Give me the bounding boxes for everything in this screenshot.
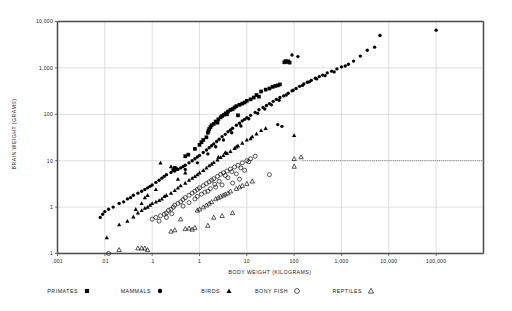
- legend-label-primates: PRIMATES: [47, 288, 78, 294]
- grid-lines: [58, 22, 484, 254]
- data-point: [253, 154, 257, 158]
- data-point: [378, 34, 381, 37]
- data-point: [157, 179, 160, 182]
- data-point: [154, 181, 157, 184]
- data-point: [190, 159, 193, 162]
- x-tick-label: 100,000: [426, 258, 446, 264]
- data-point: [111, 205, 114, 208]
- data-point: [256, 112, 259, 115]
- series-primates: [171, 59, 291, 172]
- y-tick-label: 1: [50, 204, 53, 210]
- data-point: [193, 197, 197, 201]
- data-point: [249, 97, 253, 101]
- data-point: [164, 193, 168, 197]
- data-point: [249, 114, 252, 117]
- data-point: [294, 87, 297, 90]
- legend-label-bony-fish: BONY FISH: [255, 288, 288, 294]
- data-point: [245, 138, 249, 142]
- data-point: [193, 225, 197, 229]
- data-point: [186, 153, 190, 157]
- data-point: [245, 99, 249, 103]
- data-point: [290, 53, 293, 56]
- legend-label-birds: BIRDS: [201, 288, 220, 294]
- data-point: [105, 235, 109, 239]
- legend-label-mammals: MAMMALS: [121, 288, 151, 294]
- legend-label-reptiles: REPTILES: [332, 288, 362, 294]
- data-point: [208, 187, 212, 191]
- axis-tick-labels: .001.01.11101001,00010,000100,000.111010…: [36, 18, 446, 264]
- data-point: [214, 185, 218, 189]
- series-mammals: [99, 29, 438, 220]
- legend-marker-open-circle: [295, 289, 300, 294]
- data-point: [288, 61, 292, 65]
- data-point: [298, 85, 301, 88]
- data-point: [332, 70, 335, 73]
- data-point: [140, 201, 144, 205]
- data-point: [206, 152, 209, 155]
- data-point: [231, 127, 234, 130]
- y-tick-label: 10,000: [36, 18, 53, 24]
- data-point: [187, 178, 191, 182]
- data-point: [236, 113, 240, 117]
- data-point: [170, 212, 174, 216]
- data-point: [344, 64, 347, 67]
- legend-marker-open-triangle: [368, 288, 373, 293]
- data-point: [164, 215, 168, 219]
- data-point: [198, 154, 201, 157]
- data-point: [271, 100, 274, 103]
- data-point: [217, 138, 220, 141]
- data-point: [222, 138, 225, 141]
- data-point: [196, 161, 199, 164]
- data-point: [215, 140, 218, 143]
- data-point: [169, 191, 173, 195]
- data-point: [183, 171, 187, 175]
- data-point: [277, 99, 280, 102]
- axis-ticks: [55, 22, 436, 257]
- data-point: [195, 194, 199, 198]
- data-point: [173, 228, 177, 232]
- data-point: [291, 89, 294, 92]
- data-point: [145, 193, 149, 197]
- data-point: [226, 176, 230, 180]
- data-point: [99, 216, 102, 219]
- data-point: [301, 84, 304, 87]
- data-point: [125, 219, 129, 223]
- data-point: [140, 208, 144, 212]
- data-point: [254, 132, 258, 136]
- data-point: [373, 45, 376, 48]
- data-point: [117, 222, 121, 226]
- data-point: [315, 77, 318, 80]
- data-point: [212, 142, 215, 145]
- data-point: [187, 161, 190, 164]
- data-point: [299, 155, 303, 159]
- data-point: [214, 145, 217, 148]
- data-point: [169, 229, 173, 233]
- data-point: [308, 80, 311, 83]
- series-reptiles: [117, 155, 303, 252]
- data-point: [239, 124, 242, 127]
- x-tick-label: .1: [150, 258, 155, 264]
- data-point: [434, 29, 437, 32]
- data-point: [173, 169, 176, 172]
- data-point: [263, 107, 266, 110]
- data-point: [323, 74, 326, 77]
- legend-marker-filled-triangle: [226, 288, 231, 293]
- data-point: [220, 183, 224, 187]
- plot-frame: [58, 22, 484, 254]
- data-point: [201, 168, 205, 172]
- data-point: [158, 161, 162, 165]
- x-tick-label: 100: [290, 258, 299, 264]
- data-point: [285, 93, 288, 96]
- data-point: [187, 201, 191, 205]
- data-point: [249, 157, 253, 161]
- data-point: [103, 210, 106, 213]
- data-point: [268, 87, 272, 91]
- data-point: [265, 104, 268, 107]
- data-point: [173, 188, 177, 192]
- data-point: [234, 104, 238, 108]
- data-point: [259, 128, 263, 132]
- data-point: [352, 59, 355, 62]
- data-point: [165, 173, 168, 176]
- data-point: [257, 108, 260, 111]
- data-point: [154, 187, 158, 191]
